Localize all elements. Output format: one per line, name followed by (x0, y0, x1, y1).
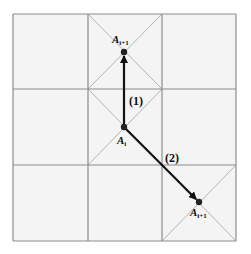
point-bottom-right (196, 199, 202, 205)
point-top (121, 49, 127, 55)
arrow-label-move-2: (2) (165, 151, 179, 165)
point-center (121, 124, 127, 130)
arrow-label-move-1: (1) (129, 94, 143, 108)
grid-diagram: (1)(2)Ai+1AiAi+1 (0, 0, 251, 254)
